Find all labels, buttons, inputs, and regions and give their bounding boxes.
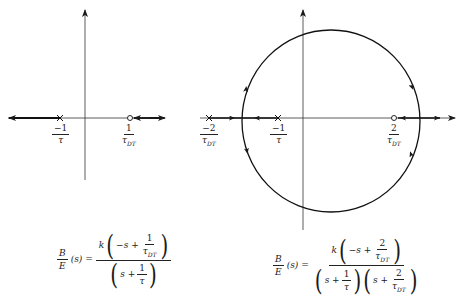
left-zero-marker [128,116,133,121]
right-zero-marker [392,116,397,121]
lhs-den: E [273,266,284,277]
label-num: −1 [270,124,287,135]
left-transfer-function: BE (s) = k ( −s + 1τDT ) ( s + 1τ ) [57,233,171,286]
frac-den: τ [342,281,351,292]
frac-sub: DT [397,286,406,293]
lhs-arg: (s) [287,260,299,270]
lhs-den: E [57,260,68,271]
frac-num: 2 [377,238,387,250]
left-root-locus [8,10,165,180]
label-sub: DT [207,140,216,147]
frac-num: 2 [394,268,404,280]
label-num: −1 [52,124,69,135]
left-zero-label: 1τDT [120,124,138,147]
gain-k: k [332,245,337,255]
label-num: −2 [200,124,217,135]
frac-sub: DT [380,256,389,263]
lhs-arg: (s) [71,254,83,264]
den1-inner: s + [325,275,340,285]
right-pole2-label: −1τ [270,124,287,145]
label-sub: DT [127,140,136,147]
label-num: 2 [389,124,399,135]
label-den: τ [274,135,283,145]
right-pole1-label: −2τDT [200,124,218,147]
den-inner: s + [120,269,135,279]
label-num: 1 [124,124,134,135]
num-inner: −s + [116,240,139,250]
den2-inner: s + [373,275,388,285]
label-sub: DT [392,140,401,147]
right-transfer-function: BE (s) = k ( −s + 2τDT ) ( s + 1τ ) ( s … [273,238,421,293]
lhs-num: B [273,254,284,266]
lhs-num: B [57,248,68,260]
circular-locus [242,30,420,212]
frac-num: 1 [145,233,155,245]
equals-sign: = [85,254,93,264]
right-root-locus [200,10,455,230]
frac-num: 1 [342,269,352,281]
frac-num: 1 [137,263,147,275]
frac-den: τ [138,275,147,286]
num-inner: −s + [349,245,372,255]
left-pole-label: −1τ [52,124,69,145]
right-zero-label: 2τDT [385,124,403,147]
gain-k: k [99,240,104,250]
equals-sign: = [301,260,309,270]
label-den: τ [56,135,65,145]
